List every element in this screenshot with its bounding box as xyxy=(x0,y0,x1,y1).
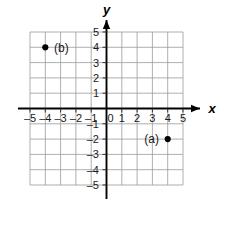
y-tick-label-1: 1 xyxy=(93,87,99,99)
point-a-group: (a) xyxy=(144,132,170,146)
coordinate-plane-figure: –5 –4 –3 –2 –1 1 2 3 4 5 0 5 4 3 2 1 –1 … xyxy=(0,0,234,239)
point-a-marker xyxy=(165,136,171,142)
y-tick-label-5: 5 xyxy=(93,26,99,38)
point-b-group: (b) xyxy=(42,41,68,55)
x-tick-label-5: 5 xyxy=(180,112,186,124)
x-tick-label--2: –2 xyxy=(70,112,82,124)
coordinate-plane-svg: –5 –4 –3 –2 –1 1 2 3 4 5 0 5 4 3 2 1 –1 … xyxy=(0,0,234,239)
point-b-marker xyxy=(42,44,48,50)
x-axis-tick-labels: –5 –4 –3 –2 –1 1 2 3 4 5 xyxy=(24,112,186,124)
y-axis-arrowhead xyxy=(103,20,110,29)
x-tick-label--3: –3 xyxy=(54,112,66,124)
x-tick-label-3: 3 xyxy=(149,112,155,124)
x-tick-label-1: 1 xyxy=(119,112,125,124)
y-tick-label-2: 2 xyxy=(93,72,99,84)
point-a-label: (a) xyxy=(144,132,159,146)
y-axis-label: y xyxy=(102,2,111,17)
x-tick-label--5: –5 xyxy=(24,112,36,124)
y-tick-label--2: –2 xyxy=(87,133,99,145)
origin-label: 0 xyxy=(107,112,113,124)
point-b-label: (b) xyxy=(54,41,69,55)
y-tick-label--4: –4 xyxy=(87,164,99,176)
x-tick-label-4: 4 xyxy=(165,112,171,124)
x-tick-label--4: –4 xyxy=(39,112,51,124)
y-tick-label-3: 3 xyxy=(93,57,99,69)
x-axis-label: x xyxy=(207,101,216,116)
x-axis-arrowhead xyxy=(191,105,200,112)
y-tick-label-4: 4 xyxy=(93,41,99,53)
y-tick-label--5: –5 xyxy=(87,179,99,191)
x-tick-label-2: 2 xyxy=(134,112,140,124)
y-tick-label--3: –3 xyxy=(87,148,99,160)
y-tick-label--1: –1 xyxy=(87,118,99,130)
